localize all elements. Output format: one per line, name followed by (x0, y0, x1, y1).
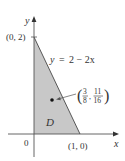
diagram-canvas: y x 0 (0, 2) (1, 0) y = 2 − 2x D ( 3 8 ,… (0, 0, 125, 161)
equation-eq: = (59, 54, 65, 65)
equation-label: y = 2 − 2x (49, 54, 95, 65)
equation-lhs: y (49, 54, 55, 65)
region-label: D (45, 116, 54, 128)
centroid-point (50, 98, 54, 102)
y-axis-label: y (24, 15, 30, 26)
centroid-close-paren: ) (104, 87, 109, 105)
x-axis-arrow-icon (113, 132, 119, 137)
centroid-comma: , (89, 92, 91, 101)
centroid-x-num: 3 (83, 87, 87, 96)
centroid-open-paren: ( (77, 87, 82, 105)
x-intercept-label: (1, 0) (68, 141, 88, 151)
region-diagram: y x 0 (0, 2) (1, 0) y = 2 − 2x D ( 3 8 ,… (0, 0, 125, 161)
y-axis-arrow-icon (32, 16, 37, 22)
centroid-y-den: 16 (94, 96, 102, 105)
centroid-x-den: 8 (83, 96, 87, 105)
equation-rhs: 2 − 2x (69, 54, 95, 65)
origin-label: 0 (24, 138, 29, 148)
centroid-y-num: 11 (94, 87, 101, 96)
y-intercept-label: (0, 2) (6, 32, 26, 42)
x-axis-label: x (113, 138, 119, 149)
centroid-label: ( 3 8 , 11 16 ) (77, 87, 109, 105)
